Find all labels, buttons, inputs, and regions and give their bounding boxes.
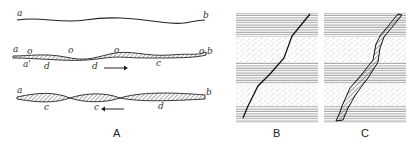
label-a-row2: a (13, 45, 18, 54)
label-o1: o (27, 47, 32, 56)
label-d-row3: d (158, 102, 164, 111)
label-d2: d (92, 62, 98, 71)
figure-canvas (0, 0, 416, 145)
label-a-prime: a' (23, 60, 31, 69)
label-d1: d (44, 62, 50, 71)
caption-c: C (361, 128, 369, 139)
panel-b (236, 13, 318, 123)
label-c-row2: c (156, 59, 161, 68)
label-c2-row3: c (94, 103, 99, 112)
surface-line-row1 (17, 18, 205, 24)
label-a-row3: a (17, 86, 22, 95)
label-c1-row3: c (44, 103, 49, 112)
panel-c (324, 13, 406, 123)
caption-b: B (273, 128, 280, 139)
caption-a: A (113, 128, 120, 139)
row2-shape (13, 52, 206, 60)
label-a-row1: a (17, 9, 22, 18)
label-o2: o (68, 46, 73, 55)
label-o3: o (114, 46, 119, 55)
label-o4: o (199, 47, 204, 56)
row3-shape (17, 93, 205, 102)
label-b-row2: b (207, 47, 213, 56)
label-b-row3: b (206, 88, 212, 97)
label-b-row1: b (203, 11, 209, 20)
